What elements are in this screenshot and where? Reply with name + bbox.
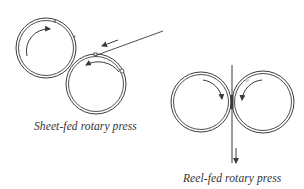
sheet-fed-caption: Sheet-fed rotary press: [34, 120, 137, 132]
rotation-arrow-clockwise-icon: [203, 80, 222, 99]
rotation-arrow-counter-clockwise-icon: [242, 80, 262, 100]
sheet-fed-upper-cylinder: [16, 18, 76, 78]
sheet-feed-line: [97, 31, 163, 55]
reel-fed-left-cylinder: [171, 72, 231, 132]
reel-fed-right-cylinder: [232, 71, 294, 133]
rotary-press-diagram: Sheet-fed rotary press Reel-fed rotary p…: [0, 0, 304, 189]
sheet-fed-panel: [16, 18, 163, 114]
feed-direction-arrow-icon: [102, 40, 118, 46]
nip-contact: [231, 95, 234, 109]
reel-fed-panel: [171, 65, 294, 163]
rotation-arrow-clockwise-icon: [26, 29, 50, 56]
diagram-canvas: [0, 0, 304, 189]
reel-fed-caption: Reel-fed rotary press: [183, 172, 281, 184]
